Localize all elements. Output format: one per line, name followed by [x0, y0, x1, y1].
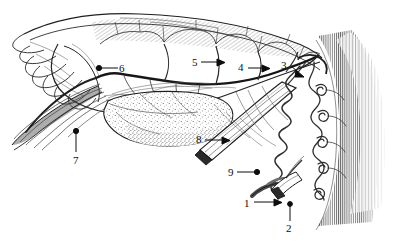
label-9: 9 — [228, 167, 234, 178]
label-1: 1 — [244, 198, 250, 209]
label-7: 7 — [73, 155, 79, 166]
label-3: 3 — [281, 60, 287, 71]
label-2: 2 — [286, 223, 292, 234]
anatomical-figure: 1 2 3 4 5 6 7 8 9 — [0, 0, 393, 243]
anatomy-illustration — [0, 0, 393, 243]
label-8: 8 — [196, 134, 202, 145]
label-4: 4 — [238, 62, 244, 73]
label-6: 6 — [119, 63, 125, 74]
label-5: 5 — [192, 57, 198, 68]
